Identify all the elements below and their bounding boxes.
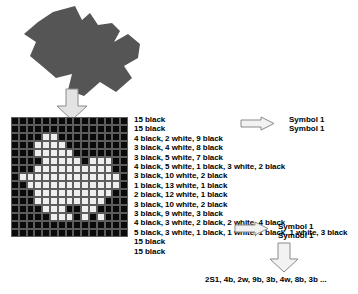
bitmap-cell bbox=[89, 117, 97, 125]
rle-line: 4 black, 2 white, 9 black bbox=[134, 134, 358, 143]
bitmap-cell bbox=[120, 149, 128, 157]
bitmap-cell bbox=[81, 221, 89, 229]
bitmap-cell bbox=[89, 197, 97, 205]
bitmap-cell bbox=[27, 165, 35, 173]
bitmap-cell bbox=[11, 125, 19, 133]
bitmap-cell bbox=[50, 181, 58, 189]
bitmap-cell bbox=[50, 141, 58, 149]
bitmap-cell bbox=[50, 157, 58, 165]
bitmap-cell bbox=[73, 125, 81, 133]
diagram-canvas: 15 black15 black4 black, 2 white, 9 blac… bbox=[0, 0, 358, 294]
bitmap-cell bbox=[27, 149, 35, 157]
bitmap-cell bbox=[105, 165, 113, 173]
rle-line: 1 black, 13 white, 1 black bbox=[134, 181, 358, 190]
bitmap-cell bbox=[120, 181, 128, 189]
bitmap-cell bbox=[50, 149, 58, 157]
bitmap-cell bbox=[58, 181, 66, 189]
rle-line: 3 black, 4 white, 8 black bbox=[134, 143, 358, 152]
symbol-label-bottom-first: Symbol 1 bbox=[278, 222, 314, 231]
bitmap-cell bbox=[50, 117, 58, 125]
bitmap-cell bbox=[105, 149, 113, 157]
bitmap-cell bbox=[42, 133, 50, 141]
bitmap-cell bbox=[81, 125, 89, 133]
bitmap-cell bbox=[42, 213, 50, 221]
bitmap-cell bbox=[112, 133, 120, 141]
bitmap-cell bbox=[50, 197, 58, 205]
bitmap-cell bbox=[34, 197, 42, 205]
bitmap-cell bbox=[73, 141, 81, 149]
bitmap-cell bbox=[50, 125, 58, 133]
bitmap-cell bbox=[50, 165, 58, 173]
bitmap-cell bbox=[120, 125, 128, 133]
rle-line: 4 black, 5 white, 1 black, 3 white, 2 bl… bbox=[134, 162, 358, 171]
bitmap-cell bbox=[19, 229, 27, 237]
bitmap-cell bbox=[73, 221, 81, 229]
bitmap-cell bbox=[19, 149, 27, 157]
bitmap-cell bbox=[42, 173, 50, 181]
bitmap-cell bbox=[73, 149, 81, 157]
bitmap-cell bbox=[97, 221, 105, 229]
bitmap-cell bbox=[89, 213, 97, 221]
bitmap-cell bbox=[105, 141, 113, 149]
bitmap-cell bbox=[97, 157, 105, 165]
bitmap-cell bbox=[97, 165, 105, 173]
bitmap-cell bbox=[112, 141, 120, 149]
bitmap-cell bbox=[11, 213, 19, 221]
bitmap-cell bbox=[73, 165, 81, 173]
bitmap-cell bbox=[11, 229, 19, 237]
bitmap-cell bbox=[27, 117, 35, 125]
bitmap-cell bbox=[112, 181, 120, 189]
bitmap-cell bbox=[58, 221, 66, 229]
bitmap-cell bbox=[27, 181, 35, 189]
bitmap-cell bbox=[19, 165, 27, 173]
bitmap-cell bbox=[19, 173, 27, 181]
bitmap-cell bbox=[27, 173, 35, 181]
bitmap-cell bbox=[66, 157, 74, 165]
down-arrow-icon-to-output bbox=[268, 242, 300, 274]
bitmap-cell bbox=[89, 221, 97, 229]
bitmap-cell bbox=[19, 213, 27, 221]
bitmap-cell bbox=[112, 189, 120, 197]
bitmap-cell bbox=[19, 221, 27, 229]
bitmap-cell bbox=[120, 133, 128, 141]
bitmap-cell bbox=[42, 117, 50, 125]
bitmap-cell bbox=[66, 189, 74, 197]
bitmap-cell bbox=[19, 157, 27, 165]
bitmap-cell bbox=[73, 205, 81, 213]
bitmap-cell bbox=[27, 157, 35, 165]
bitmap-cell bbox=[97, 213, 105, 221]
bitmap-cell bbox=[27, 205, 35, 213]
rle-line: 3 black, 5 white, 7 black bbox=[134, 153, 358, 162]
bitmap-cell bbox=[73, 133, 81, 141]
bitmap-cell bbox=[112, 117, 120, 125]
bitmap-cell bbox=[34, 205, 42, 213]
bitmap-cell bbox=[58, 149, 66, 157]
bitmap-cell bbox=[11, 197, 19, 205]
rle-line: 15 black bbox=[134, 247, 358, 256]
bitmap-cell bbox=[89, 133, 97, 141]
bitmap-cell bbox=[58, 229, 66, 237]
bitmap-cell bbox=[19, 189, 27, 197]
bitmap-cell bbox=[42, 189, 50, 197]
bitmap-cell bbox=[89, 141, 97, 149]
bitmap-cell bbox=[105, 205, 113, 213]
bitmap-cell bbox=[11, 141, 19, 149]
bitmap-cell bbox=[97, 125, 105, 133]
bitmap-cell bbox=[58, 165, 66, 173]
bitmap-cell bbox=[27, 213, 35, 221]
bitmap-cell bbox=[34, 165, 42, 173]
rle-line: 3 black, 10 white, 2 black bbox=[134, 200, 358, 209]
bitmap-cell bbox=[97, 133, 105, 141]
bitmap-cell bbox=[112, 149, 120, 157]
bitmap-cell bbox=[11, 205, 19, 213]
bitmap-cell bbox=[42, 149, 50, 157]
bitmap-cell bbox=[120, 197, 128, 205]
bitmap-cell bbox=[97, 205, 105, 213]
bitmap-cell bbox=[42, 181, 50, 189]
bitmap-cell bbox=[34, 221, 42, 229]
blob-polygon bbox=[24, 6, 140, 96]
bitmap-cell bbox=[105, 229, 113, 237]
bitmap-cell bbox=[81, 213, 89, 221]
bitmap-cell bbox=[11, 117, 19, 125]
bitmap-cell bbox=[27, 125, 35, 133]
